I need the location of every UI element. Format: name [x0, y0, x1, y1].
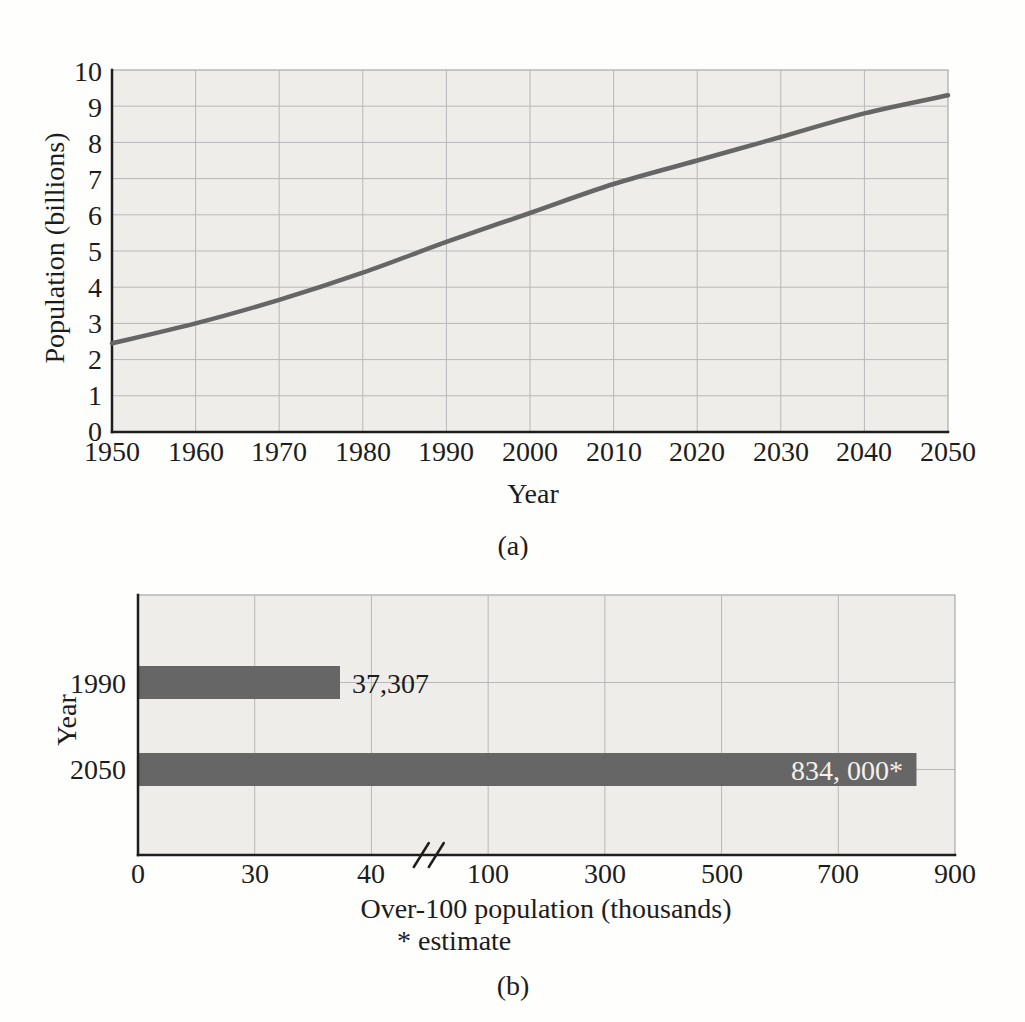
a-xtick-1960: 1960: [168, 436, 224, 467]
b-xtick-300: 300: [584, 858, 626, 889]
a-ytick-9: 9: [88, 92, 102, 123]
a-xtick-2030: 2030: [753, 436, 809, 467]
a-ytick-6: 6: [88, 200, 102, 231]
b-plot-area: [138, 595, 955, 855]
a-y-axis-label: Population (billions): [39, 133, 70, 364]
b-x-axis-label: Over-100 population (thousands): [360, 893, 731, 924]
b-y-axis-label: Year: [51, 694, 82, 746]
line-chart-population: 0 1 2 3 4 5 6 7 8 9 10 1950 1960 1970 19…: [0, 0, 1025, 560]
a-xtick-1980: 1980: [335, 436, 391, 467]
a-xtick-2020: 2020: [669, 436, 725, 467]
a-ytick-3: 3: [88, 308, 102, 339]
bar-1990: [138, 666, 340, 699]
b-category-2050: 2050: [70, 754, 126, 785]
b-xtick-30: 30: [241, 858, 269, 889]
bar-chart-over-100-population: 1990 2050 37,307 834, 000* 0 30 40 100 3…: [0, 560, 1025, 1022]
b-value-label-2050: 834, 000*: [791, 755, 903, 786]
a-ytick-4: 4: [88, 272, 102, 303]
a-ytick-5: 5: [88, 236, 102, 267]
b-xtick-700: 700: [817, 858, 859, 889]
a-ytick-2: 2: [88, 344, 102, 375]
caption-a: (a): [497, 530, 528, 560]
a-xtick-1970: 1970: [251, 436, 307, 467]
a-xtick-1990: 1990: [418, 436, 474, 467]
textbook-figure: 0 1 2 3 4 5 6 7 8 9 10 1950 1960 1970 19…: [0, 0, 1025, 1022]
a-ytick-8: 8: [88, 128, 102, 159]
b-xtick-100: 100: [467, 858, 509, 889]
a-ytick-10: 10: [74, 56, 102, 87]
a-xtick-2010: 2010: [586, 436, 642, 467]
a-xtick-2040: 2040: [836, 436, 892, 467]
a-ytick-7: 7: [88, 164, 102, 195]
a-xtick-2000: 2000: [502, 436, 558, 467]
a-x-axis-label: Year: [507, 478, 559, 509]
b-footnote-estimate: * estimate: [397, 925, 511, 956]
b-xtick-40: 40: [357, 858, 385, 889]
a-xtick-1950: 1950: [84, 436, 140, 467]
b-xtick-900: 900: [934, 858, 976, 889]
a-ytick-1: 1: [88, 380, 102, 411]
a-xtick-2050: 2050: [920, 436, 976, 467]
b-xtick-0: 0: [131, 858, 145, 889]
b-xtick-500: 500: [701, 858, 743, 889]
caption-b: (b): [497, 970, 530, 1001]
b-value-label-1990: 37,307: [352, 668, 429, 699]
